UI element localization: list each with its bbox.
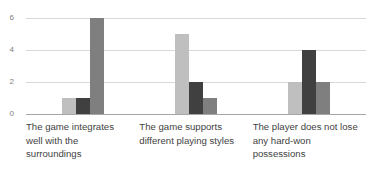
bar[interactable] (316, 82, 330, 114)
bar-group (139, 18, 252, 114)
bar-group-bars (139, 18, 252, 114)
bar-groups (26, 18, 366, 114)
y-axis-tick-label: 6 (0, 14, 14, 22)
bar-group (26, 18, 139, 114)
bar-group-bars (26, 18, 139, 114)
bar[interactable] (90, 18, 104, 114)
axis-baseline (26, 114, 366, 115)
y-axis-tick-label: 2 (0, 78, 14, 86)
bar-chart: 0246 The game integrates well with the s… (0, 0, 374, 192)
bar[interactable] (76, 98, 90, 114)
x-axis-category-label: The player does not lose any hard-won po… (253, 120, 366, 161)
bar[interactable] (62, 98, 76, 114)
x-axis-category-label: The game integrates well with the surrou… (26, 120, 139, 161)
x-axis-category-label: The game supports different playing styl… (139, 120, 252, 161)
bar-group (253, 18, 366, 114)
bar[interactable] (302, 50, 316, 114)
bar[interactable] (203, 98, 217, 114)
bar-group-bars (253, 18, 366, 114)
bar[interactable] (175, 34, 189, 114)
bar[interactable] (189, 82, 203, 114)
y-axis-tick-label: 4 (0, 46, 14, 54)
bar[interactable] (288, 82, 302, 114)
x-axis-category-labels: The game integrates well with the surrou… (26, 120, 366, 161)
y-axis-tick-label: 0 (0, 110, 14, 118)
